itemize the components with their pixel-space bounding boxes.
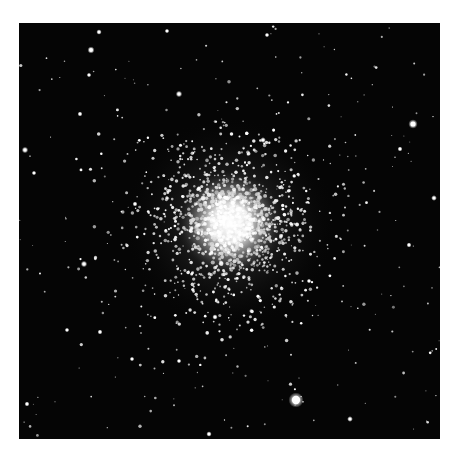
- bright-star: [348, 417, 351, 420]
- star: [308, 202, 310, 204]
- star: [219, 126, 222, 129]
- star: [238, 151, 241, 154]
- star: [97, 132, 101, 136]
- star: [276, 271, 278, 273]
- star: [303, 210, 306, 213]
- star: [429, 351, 432, 354]
- star: [209, 155, 212, 158]
- star: [163, 192, 166, 195]
- star: [238, 215, 241, 218]
- star: [416, 112, 418, 114]
- star: [215, 222, 219, 226]
- star: [179, 252, 181, 254]
- star: [337, 384, 338, 385]
- star: [159, 235, 161, 237]
- star: [218, 324, 220, 326]
- star: [125, 269, 127, 271]
- star: [246, 150, 250, 154]
- star: [354, 134, 356, 136]
- star: [236, 207, 240, 211]
- star: [180, 68, 181, 69]
- star: [324, 46, 325, 47]
- star: [293, 174, 296, 177]
- star: [214, 248, 216, 250]
- star: [286, 225, 288, 227]
- star: [211, 260, 215, 264]
- star: [341, 116, 342, 117]
- star: [135, 149, 137, 151]
- star: [232, 162, 234, 164]
- star: [261, 154, 264, 157]
- star: [193, 176, 195, 178]
- star: [224, 419, 225, 420]
- star: [160, 134, 163, 137]
- star: [278, 293, 280, 295]
- star: [39, 89, 41, 91]
- star: [159, 217, 163, 221]
- star: [203, 128, 205, 130]
- star: [375, 314, 376, 315]
- star: [315, 305, 316, 306]
- star: [212, 217, 216, 221]
- star: [362, 181, 365, 184]
- star: [260, 224, 262, 226]
- star: [212, 291, 215, 294]
- star: [347, 156, 348, 157]
- star: [253, 318, 256, 321]
- star: [274, 223, 276, 225]
- star: [141, 182, 143, 184]
- bright-star: [82, 262, 86, 266]
- star: [242, 147, 245, 150]
- star: [256, 249, 259, 252]
- star: [102, 312, 105, 315]
- star: [90, 396, 92, 398]
- star: [202, 224, 204, 226]
- star: [197, 231, 200, 234]
- star: [274, 138, 277, 141]
- star: [75, 158, 78, 161]
- star: [150, 181, 152, 183]
- star: [334, 138, 336, 140]
- star: [288, 196, 290, 198]
- star: [265, 176, 269, 180]
- star: [281, 194, 283, 196]
- bright-star: [177, 92, 181, 96]
- star: [64, 60, 66, 62]
- star: [147, 137, 149, 139]
- bright-star: [99, 331, 102, 334]
- star: [125, 191, 128, 194]
- star: [307, 300, 309, 302]
- star: [246, 320, 249, 323]
- star: [284, 171, 285, 172]
- star: [357, 101, 358, 102]
- star: [316, 256, 318, 258]
- star: [220, 148, 222, 150]
- star: [290, 168, 293, 171]
- star: [231, 216, 234, 219]
- star: [93, 225, 97, 229]
- star: [388, 27, 390, 29]
- star: [426, 421, 427, 422]
- star: [223, 303, 225, 305]
- star: [195, 355, 198, 358]
- star: [257, 296, 260, 299]
- star: [193, 147, 196, 150]
- star: [431, 287, 433, 289]
- star: [265, 248, 267, 250]
- star: [242, 198, 246, 202]
- bright-star: [178, 360, 181, 363]
- star: [439, 340, 440, 341]
- star: [357, 307, 359, 309]
- star: [239, 243, 243, 247]
- star: [365, 403, 366, 404]
- bright-star: [26, 403, 29, 406]
- star: [260, 312, 262, 314]
- star: [281, 259, 283, 261]
- star: [291, 282, 293, 284]
- star: [188, 308, 191, 311]
- star: [330, 219, 331, 220]
- star: [263, 194, 267, 198]
- star: [295, 282, 297, 284]
- star: [176, 268, 178, 270]
- star: [29, 155, 31, 157]
